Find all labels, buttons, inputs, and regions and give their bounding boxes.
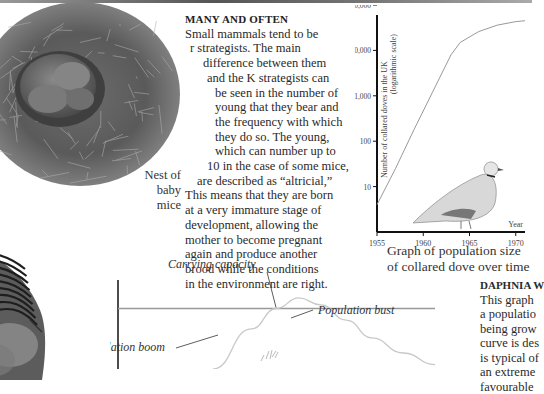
population-boom-leader — [176, 335, 218, 348]
nest-of-baby-mice-photo — [0, 0, 190, 194]
dove-beak — [498, 168, 504, 171]
article-line: Small mammals tend to be — [185, 27, 330, 42]
article-line: young that they bear and — [185, 100, 330, 115]
daphnia-stroke — [261, 355, 264, 361]
daphnia-stroke — [270, 350, 272, 359]
article-line: they do so. The young, — [185, 130, 330, 145]
dove-population-line — [377, 21, 525, 205]
article-line: be seen in the number of — [185, 86, 330, 101]
article-line: difference between them — [185, 56, 330, 71]
dove-head — [484, 162, 498, 176]
article-line: r strategists. The main — [185, 41, 330, 56]
population-bust-leader — [291, 310, 313, 318]
daphnia-population-chart: Carrying capacityPopulation bustPopulati… — [110, 255, 440, 369]
article-line: mother to become pregnant — [185, 233, 330, 248]
collared-dove-chart: 101001,00010,000100,0001955196019651970N… — [355, 5, 532, 265]
y-tick-label: 100,000 — [355, 5, 371, 10]
daphnia-body: This grapha populatiobeing growcurve is … — [480, 293, 540, 394]
daphnia-line: This graph — [480, 293, 540, 308]
y-tick-label: 10,000 — [355, 46, 371, 55]
y-axis-label-scale: (logarithmic scale) — [389, 34, 398, 95]
y-tick-label: 100 — [360, 137, 372, 146]
article-line: the frequency with which — [185, 115, 330, 130]
daphnia-stroke — [266, 351, 269, 359]
daphnia-line: favourable — [480, 380, 540, 394]
daphnia-line: is typical of — [480, 351, 540, 366]
y-axis-label: Number of collared doves in the UK — [380, 61, 389, 178]
daphnia-line: a populatio — [480, 307, 540, 322]
y-tick-label: 10 — [364, 183, 372, 192]
daphnia-illustration — [261, 350, 278, 361]
daphnia-line: being grow — [480, 322, 540, 337]
article-line: 10 in the case of some mice, — [185, 159, 330, 174]
carrying-capacity-label: Carrying capacity — [168, 257, 256, 271]
article-line: which can number up to — [185, 144, 330, 159]
collared-dove-illustration — [413, 162, 504, 229]
dove-legs — [461, 221, 471, 229]
article-line: are described as “altricial,” — [185, 174, 330, 189]
carrying-capacity-leader — [267, 272, 276, 307]
daphnia-line: an extreme — [480, 365, 540, 380]
article-line: at a very immature stage of — [185, 203, 330, 218]
article-body: Small mammals tend to ber strategists. T… — [185, 27, 330, 292]
article-heading: MANY AND OFTEN — [185, 12, 330, 27]
article-line: and the K strategists can — [185, 71, 330, 86]
nest-caption-line: Nest of — [133, 168, 181, 183]
y-tick-label: 1,000 — [355, 92, 371, 101]
many-and-often-article: MANY AND OFTEN Small mammals tend to ber… — [185, 12, 330, 291]
nest-caption: Nest of baby mice — [133, 168, 181, 213]
article-line: development, allowing the — [185, 218, 330, 233]
article-line: This means that they are born — [185, 188, 330, 203]
budgerigar-photo — [0, 250, 80, 380]
x-axis-label: Year — [508, 220, 523, 229]
population-bust-label: Population bust — [317, 303, 395, 317]
daphnia-stroke — [272, 351, 276, 357]
daphnia-article: DAPHNIA W This grapha populatiobeing gro… — [480, 278, 540, 394]
x-tick-label: 1955 — [369, 239, 385, 248]
daphnia-heading: DAPHNIA W — [480, 278, 540, 293]
nest-caption-line: baby mice — [133, 183, 181, 213]
population-boom-label: Population boom — [110, 340, 165, 354]
daphnia-line: curve is des — [480, 336, 540, 351]
daphnia-stroke — [275, 352, 278, 358]
